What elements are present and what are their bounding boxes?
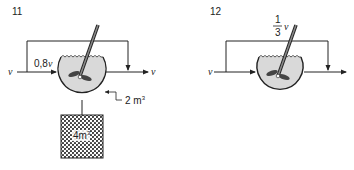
vessel-volume-label: 2 m3: [125, 95, 146, 106]
bypass-fraction-label: 1 3 v: [273, 14, 289, 38]
panel-12: v 1 3 v: [208, 14, 346, 89]
diagram-canvas: 2 m3 4m3 v 0,8v v v 1 3: [0, 0, 354, 170]
panel-11: 2 m3 4m3 v 0,8v v: [8, 25, 156, 158]
inlet-flow-label: v: [8, 66, 13, 77]
outlet-flow-label: v: [151, 66, 156, 77]
feed-flow-label: 0,8v: [34, 58, 53, 69]
svg-text:3: 3: [275, 27, 281, 38]
svg-text:v: v: [284, 21, 289, 32]
inlet-flow-label: v: [208, 66, 213, 77]
svg-text:1: 1: [275, 14, 281, 25]
